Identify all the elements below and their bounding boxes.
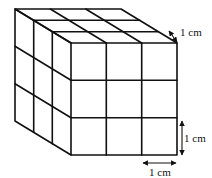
width-label: 1 cm xyxy=(149,166,171,178)
height-dimension: 1 cm xyxy=(182,121,206,155)
width-dimension: 1 cm xyxy=(143,163,176,178)
depth-dimension: 1 cm xyxy=(169,26,202,42)
height-label: 1 cm xyxy=(184,132,206,144)
front-face xyxy=(71,43,177,155)
top-face xyxy=(15,9,177,43)
left-face xyxy=(15,9,71,155)
cube-diagram: 1 cm 1 cm 1 cm xyxy=(0,0,212,178)
depth-label: 1 cm xyxy=(180,26,202,38)
